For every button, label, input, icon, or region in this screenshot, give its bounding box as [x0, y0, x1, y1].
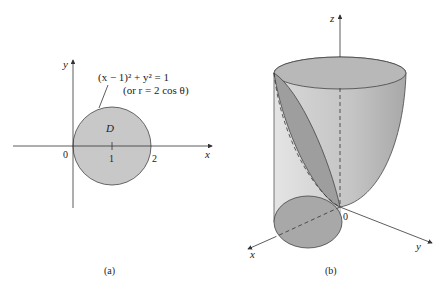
equation-line1: (x − 1)² + y² = 1 [98, 71, 169, 84]
y-axis-label-3d: y [415, 240, 421, 252]
figure-b: z x y 0 (b) [248, 12, 432, 277]
figure-canvas: y x D 0 1 2 (x − 1)² + y² = 1 (or r = 2 … [0, 0, 445, 292]
figure-a: y x D 0 1 2 (x − 1)² + y² = 1 (or r = 2 … [13, 58, 212, 277]
equation-pointer [99, 85, 108, 108]
region-label: D [105, 122, 114, 134]
tick-1-label: 1 [109, 153, 114, 164]
tick-2-label: 2 [152, 153, 157, 164]
x-axis-label-3d: x [249, 248, 255, 260]
origin-label-3d: 0 [343, 211, 348, 222]
x-axis-label: x [204, 148, 210, 160]
caption-b: (b) [325, 265, 337, 277]
y-axis-3d [340, 207, 432, 243]
y-axis-label: y [62, 58, 68, 70]
equation-line2: (or r = 2 cos θ) [123, 84, 189, 97]
caption-a: (a) [104, 265, 115, 277]
paraboloid-rim [274, 57, 406, 89]
origin-label: 0 [63, 149, 68, 160]
z-axis-label: z [329, 12, 335, 24]
